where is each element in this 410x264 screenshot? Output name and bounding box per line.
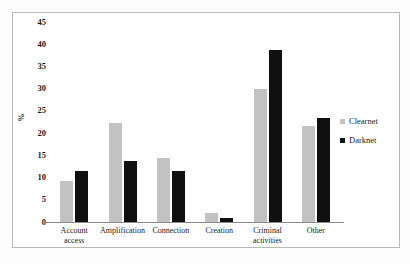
bar-clearnet bbox=[60, 181, 73, 222]
bar-clearnet bbox=[254, 89, 267, 222]
bar-clearnet bbox=[302, 126, 315, 222]
bar-group bbox=[254, 22, 282, 222]
bar-clearnet bbox=[205, 213, 218, 222]
bar-darknet bbox=[124, 161, 137, 222]
bar-clearnet bbox=[109, 123, 122, 222]
y-axis-tick-40: 40 bbox=[20, 40, 46, 49]
bar-group bbox=[109, 22, 137, 222]
y-axis-tick-25: 25 bbox=[20, 106, 46, 115]
bar-group bbox=[205, 22, 233, 222]
chart-legend: ClearnetDarknet bbox=[340, 112, 398, 150]
legend-item-darknet: Darknet bbox=[340, 131, 398, 150]
x-axis-label-line: access bbox=[45, 236, 103, 246]
y-axis-tick-45: 45 bbox=[20, 18, 46, 27]
bar-darknet bbox=[269, 50, 282, 222]
y-axis-tick-15: 15 bbox=[20, 151, 46, 160]
y-axis-tick-30: 30 bbox=[20, 84, 46, 93]
legend-item-clearnet: Clearnet bbox=[340, 112, 398, 131]
legend-swatch-icon bbox=[340, 138, 345, 143]
bar-darknet bbox=[75, 171, 88, 222]
bar-darknet bbox=[172, 171, 185, 222]
bar-group bbox=[60, 22, 88, 222]
bar-group bbox=[157, 22, 185, 222]
bar-chart: % 454035302520151050 ClearnetDarknet Acc… bbox=[0, 0, 410, 264]
bar-group bbox=[302, 22, 330, 222]
y-axis-tick-labels: 454035302520151050 bbox=[14, 0, 46, 264]
y-axis-tick-5: 5 bbox=[20, 195, 46, 204]
x-axis-label-line: activities bbox=[238, 236, 296, 246]
bar-darknet bbox=[317, 118, 330, 222]
y-axis-tick-35: 35 bbox=[20, 62, 46, 71]
plot-area bbox=[50, 22, 340, 222]
y-axis-tick-10: 10 bbox=[20, 173, 46, 182]
x-axis-line bbox=[44, 222, 344, 223]
bar-darknet bbox=[220, 218, 233, 222]
x-axis-label: Other bbox=[287, 226, 345, 236]
x-axis-label-line: Other bbox=[287, 226, 345, 236]
bar-clearnet bbox=[157, 158, 170, 222]
y-axis-tick-0: 0 bbox=[20, 218, 46, 227]
legend-swatch-icon bbox=[340, 119, 345, 124]
legend-label: Darknet bbox=[349, 136, 376, 145]
legend-label: Clearnet bbox=[349, 117, 378, 126]
y-axis-tick-20: 20 bbox=[20, 129, 46, 138]
